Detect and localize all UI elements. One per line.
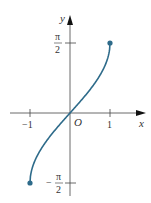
y-tick-label-neg-pi-den: 2 bbox=[56, 184, 61, 195]
y-axis-label: y bbox=[59, 12, 65, 24]
endpoint-marker bbox=[107, 40, 112, 45]
x-tick-label-neg1: −1 bbox=[22, 119, 33, 130]
endpoint-marker bbox=[27, 180, 32, 185]
y-tick-label-pi-den: 2 bbox=[55, 44, 60, 55]
y-axis-arrow-icon bbox=[67, 15, 73, 25]
origin-label: O bbox=[74, 116, 82, 128]
y-tick-label-pi-num: π bbox=[55, 31, 60, 42]
x-tick-label-1: 1 bbox=[107, 119, 112, 130]
arcsin-graph: y x O −1 1 π 2 − π 2 bbox=[0, 0, 151, 203]
y-tick-label-neg-pi-num: π bbox=[56, 171, 61, 182]
x-axis-label: x bbox=[138, 117, 144, 129]
y-tick-label-neg-sign: − bbox=[46, 177, 52, 188]
x-axis-arrow-icon bbox=[136, 110, 146, 116]
